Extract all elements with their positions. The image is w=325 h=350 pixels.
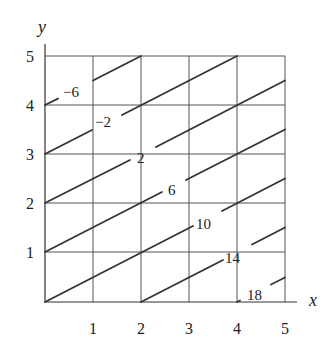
contour-lines <box>45 56 285 302</box>
contour-line-2 <box>45 160 130 203</box>
contour-label: −6 <box>63 84 79 100</box>
contour-line-2 <box>156 81 285 148</box>
y-tick-label: 2 <box>26 195 34 212</box>
contour-line-14 <box>252 228 285 245</box>
x-tick-label: 1 <box>89 320 97 337</box>
x-tick-label: 5 <box>281 320 289 337</box>
y-axis-label: y <box>36 17 46 37</box>
y-tick-label: 3 <box>26 146 34 163</box>
contour-line-10 <box>45 226 193 302</box>
contour-line-14 <box>141 260 223 302</box>
x-tick-labels: 1 2 3 4 5 <box>89 320 289 337</box>
x-tick-label: 4 <box>233 320 241 337</box>
contour-label: −2 <box>95 114 111 130</box>
y-tick-labels: 1 2 3 4 5 <box>26 48 34 261</box>
x-tick-label: 3 <box>185 320 193 337</box>
contour-line-neg2 <box>122 56 237 115</box>
contour-label: 6 <box>168 182 176 198</box>
contour-label: 14 <box>225 250 241 266</box>
contour-line-6 <box>45 192 162 252</box>
y-tick-label: 1 <box>26 244 34 261</box>
contour-line-18 <box>271 278 285 285</box>
y-tick-label: 5 <box>26 48 34 65</box>
x-tick-label: 2 <box>137 320 145 337</box>
axes <box>45 44 297 302</box>
contour-label: 18 <box>247 287 262 303</box>
contour-line-neg2 <box>45 130 92 154</box>
x-axis-label: x <box>308 290 317 310</box>
contour-label: 2 <box>137 150 145 166</box>
contour-line-10 <box>222 179 285 212</box>
contour-line-6 <box>186 130 285 181</box>
contour-line-neg6 <box>93 56 141 81</box>
contour-label: 10 <box>196 216 211 232</box>
contour-plot: −6 −2 2 6 10 14 18 1 2 3 4 5 1 2 3 4 5 y… <box>0 0 325 350</box>
contour-line-neg6 <box>45 99 58 105</box>
y-tick-label: 4 <box>26 97 34 114</box>
